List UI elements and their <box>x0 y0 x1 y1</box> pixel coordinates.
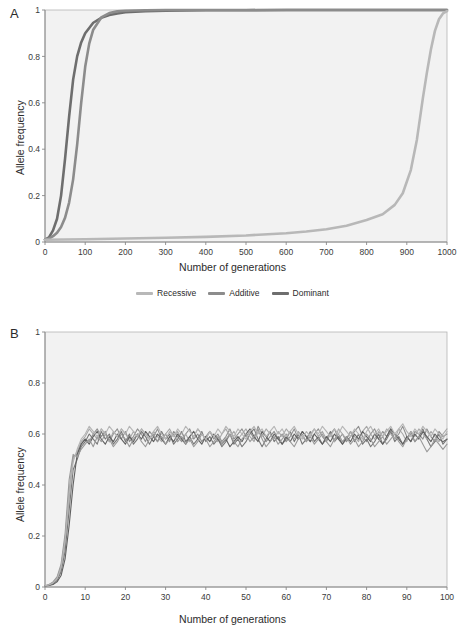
y-tick-label: 1 <box>35 5 40 15</box>
x-tick-label: 40 <box>201 592 211 602</box>
x-tick-label: 0 <box>43 592 48 602</box>
panel-a-x-axis-title: Number of generations <box>0 261 465 273</box>
x-tick-label: 300 <box>159 247 173 257</box>
legend-swatch-icon <box>208 292 225 295</box>
x-tick-label: 80 <box>362 592 372 602</box>
x-tick-label: 50 <box>241 592 251 602</box>
x-tick-label: 700 <box>319 247 333 257</box>
x-tick-label: 100 <box>440 592 454 602</box>
x-tick-label: 70 <box>322 592 332 602</box>
y-tick-label: 0.6 <box>28 98 40 108</box>
legend-item-dominant: Dominant <box>272 288 329 298</box>
panel-b-x-axis-title: Number of generations <box>0 613 465 625</box>
plot-area-background <box>45 332 447 587</box>
x-tick-label: 600 <box>279 247 293 257</box>
panel-a-plot: 00.20.40.60.8101002003004005006007008009… <box>0 0 465 258</box>
legend-item-recessive: Recessive <box>136 288 196 298</box>
y-tick-label: 0.4 <box>28 480 40 490</box>
y-tick-label: 0 <box>35 237 40 247</box>
y-tick-label: 0.2 <box>28 191 40 201</box>
x-tick-label: 0 <box>43 247 48 257</box>
y-tick-label: 0.2 <box>28 531 40 541</box>
x-tick-label: 1000 <box>438 247 457 257</box>
x-tick-label: 400 <box>199 247 213 257</box>
panel-a: A 00.20.40.60.81010020030040050060070080… <box>0 0 465 282</box>
x-tick-label: 20 <box>121 592 131 602</box>
x-tick-label: 100 <box>78 247 92 257</box>
legend-label: Recessive <box>157 288 196 298</box>
legend-item-additive: Additive <box>208 288 259 298</box>
plot-area-background <box>45 10 447 242</box>
figure-container: A 00.20.40.60.81010020030040050060070080… <box>0 0 465 631</box>
legend-label: Dominant <box>293 288 329 298</box>
y-tick-label: 0.8 <box>28 378 40 388</box>
legend-label: Additive <box>229 288 259 298</box>
x-tick-label: 800 <box>360 247 374 257</box>
y-tick-label: 0.4 <box>28 144 40 154</box>
panel-b-plot: 00.20.40.60.810102030405060708090100 <box>0 322 465 607</box>
x-tick-label: 900 <box>400 247 414 257</box>
legend-swatch-icon <box>136 292 153 295</box>
panel-a-y-axis-title: Allele frequency <box>14 100 26 175</box>
x-tick-label: 60 <box>281 592 291 602</box>
x-tick-label: 500 <box>239 247 253 257</box>
y-tick-label: 0 <box>35 582 40 592</box>
y-tick-label: 0.6 <box>28 429 40 439</box>
y-tick-label: 0.8 <box>28 52 40 62</box>
x-tick-label: 90 <box>402 592 412 602</box>
x-tick-label: 10 <box>80 592 90 602</box>
x-tick-label: 200 <box>118 247 132 257</box>
panel-b: B 00.20.40.60.810102030405060708090100 N… <box>0 322 465 631</box>
panel-b-y-axis-title: Allele frequency <box>14 447 26 522</box>
x-tick-label: 30 <box>161 592 171 602</box>
legend: RecessiveAdditiveDominant <box>0 288 465 298</box>
y-tick-label: 1 <box>35 327 40 337</box>
legend-swatch-icon <box>272 292 289 295</box>
